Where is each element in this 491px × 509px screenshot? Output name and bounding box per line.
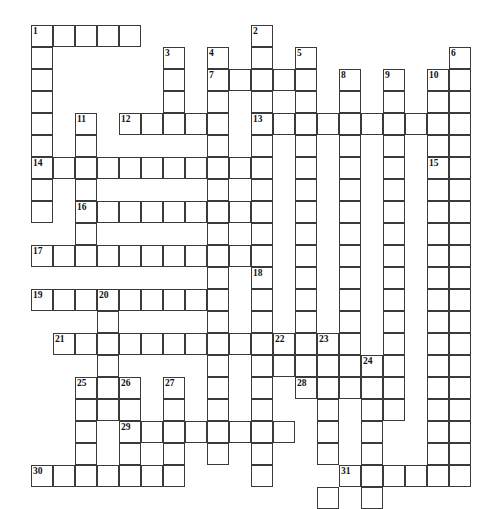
- crossword-cell[interactable]: [361, 377, 383, 399]
- crossword-cell[interactable]: [163, 289, 185, 311]
- crossword-cell[interactable]: [75, 465, 97, 487]
- crossword-cell[interactable]: [449, 223, 471, 245]
- crossword-cell[interactable]: [75, 135, 97, 157]
- crossword-cell[interactable]: [31, 201, 53, 223]
- crossword-cell[interactable]: [141, 245, 163, 267]
- crossword-cell[interactable]: [339, 113, 361, 135]
- crossword-cell[interactable]: [339, 201, 361, 223]
- crossword-cell[interactable]: [229, 157, 251, 179]
- crossword-cell[interactable]: [251, 399, 273, 421]
- crossword-cell[interactable]: [185, 157, 207, 179]
- crossword-cell[interactable]: [251, 443, 273, 465]
- crossword-cell[interactable]: [75, 399, 97, 421]
- crossword-cell[interactable]: [295, 355, 317, 377]
- crossword-cell[interactable]: [295, 69, 317, 91]
- crossword-cell[interactable]: [251, 157, 273, 179]
- crossword-cell[interactable]: [383, 333, 405, 355]
- crossword-cell[interactable]: [53, 25, 75, 47]
- crossword-cell[interactable]: [141, 289, 163, 311]
- crossword-cell[interactable]: [207, 113, 229, 135]
- crossword-cell[interactable]: [141, 333, 163, 355]
- crossword-cell[interactable]: [119, 465, 141, 487]
- crossword-cell[interactable]: [141, 465, 163, 487]
- crossword-cell[interactable]: [229, 333, 251, 355]
- crossword-cell[interactable]: [185, 245, 207, 267]
- crossword-cell[interactable]: [207, 201, 229, 223]
- crossword-cell[interactable]: [295, 113, 317, 135]
- crossword-cell[interactable]: [53, 333, 75, 355]
- crossword-cell[interactable]: [251, 201, 273, 223]
- crossword-cell[interactable]: [317, 333, 339, 355]
- crossword-cell[interactable]: [449, 465, 471, 487]
- crossword-cell[interactable]: [449, 47, 471, 69]
- crossword-cell[interactable]: [427, 333, 449, 355]
- crossword-cell[interactable]: [427, 377, 449, 399]
- crossword-cell[interactable]: [207, 399, 229, 421]
- crossword-cell[interactable]: [53, 157, 75, 179]
- crossword-cell[interactable]: [295, 267, 317, 289]
- crossword-cell[interactable]: [449, 311, 471, 333]
- crossword-cell[interactable]: [295, 47, 317, 69]
- crossword-cell[interactable]: [427, 289, 449, 311]
- crossword-cell[interactable]: [295, 135, 317, 157]
- crossword-cell[interactable]: [427, 245, 449, 267]
- crossword-cell[interactable]: [427, 91, 449, 113]
- crossword-cell[interactable]: [53, 465, 75, 487]
- crossword-cell[interactable]: [119, 245, 141, 267]
- crossword-cell[interactable]: [141, 201, 163, 223]
- crossword-cell[interactable]: [119, 399, 141, 421]
- crossword-cell[interactable]: [229, 245, 251, 267]
- crossword-cell[interactable]: [449, 399, 471, 421]
- crossword-cell[interactable]: [163, 69, 185, 91]
- crossword-cell[interactable]: [427, 179, 449, 201]
- crossword-cell[interactable]: [97, 399, 119, 421]
- crossword-cell[interactable]: [449, 113, 471, 135]
- crossword-cell[interactable]: [97, 311, 119, 333]
- crossword-cell[interactable]: [97, 333, 119, 355]
- crossword-cell[interactable]: [75, 289, 97, 311]
- crossword-cell[interactable]: [141, 421, 163, 443]
- crossword-cell[interactable]: [251, 333, 273, 355]
- crossword-cell[interactable]: [339, 377, 361, 399]
- crossword-cell[interactable]: [97, 201, 119, 223]
- crossword-cell[interactable]: [185, 201, 207, 223]
- crossword-cell[interactable]: [251, 47, 273, 69]
- crossword-cell[interactable]: [383, 157, 405, 179]
- crossword-cell[interactable]: [317, 377, 339, 399]
- crossword-cell[interactable]: [317, 487, 339, 509]
- crossword-cell[interactable]: [449, 333, 471, 355]
- crossword-cell[interactable]: [207, 245, 229, 267]
- crossword-cell[interactable]: [361, 421, 383, 443]
- crossword-cell[interactable]: [119, 421, 141, 443]
- crossword-cell[interactable]: [75, 443, 97, 465]
- crossword-cell[interactable]: [339, 69, 361, 91]
- crossword-cell[interactable]: [295, 223, 317, 245]
- crossword-cell[interactable]: [163, 47, 185, 69]
- crossword-cell[interactable]: [97, 25, 119, 47]
- crossword-cell[interactable]: [75, 179, 97, 201]
- crossword-cell[interactable]: [163, 91, 185, 113]
- crossword-cell[interactable]: [163, 377, 185, 399]
- crossword-cell[interactable]: [449, 179, 471, 201]
- crossword-cell[interactable]: [163, 157, 185, 179]
- crossword-cell[interactable]: [449, 245, 471, 267]
- crossword-cell[interactable]: [295, 377, 317, 399]
- crossword-cell[interactable]: [75, 377, 97, 399]
- crossword-cell[interactable]: [273, 333, 295, 355]
- crossword-cell[interactable]: [427, 201, 449, 223]
- crossword-cell[interactable]: [97, 245, 119, 267]
- crossword-cell[interactable]: [251, 289, 273, 311]
- crossword-cell[interactable]: [339, 245, 361, 267]
- crossword-cell[interactable]: [361, 487, 383, 509]
- crossword-cell[interactable]: [207, 355, 229, 377]
- crossword-cell[interactable]: [163, 333, 185, 355]
- crossword-cell[interactable]: [31, 113, 53, 135]
- crossword-cell[interactable]: [251, 91, 273, 113]
- crossword-cell[interactable]: [207, 443, 229, 465]
- crossword-cell[interactable]: [119, 157, 141, 179]
- crossword-cell[interactable]: [31, 465, 53, 487]
- crossword-cell[interactable]: [383, 223, 405, 245]
- crossword-cell[interactable]: [383, 311, 405, 333]
- crossword-cell[interactable]: [251, 465, 273, 487]
- crossword-cell[interactable]: [339, 267, 361, 289]
